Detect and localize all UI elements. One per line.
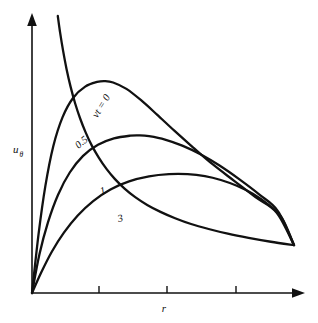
x-axis-ticks-group [99, 286, 236, 293]
axes-group [27, 13, 305, 298]
curve-label-vt0: vt = 0 [90, 92, 113, 120]
curve-label-3: 3 [115, 212, 124, 224]
y-axis-label-base: u [13, 143, 19, 155]
x-axis-label: r [162, 302, 167, 314]
plot-canvas: vt = 0 0.5 1 3 u θ r [0, 0, 318, 323]
curves-group [32, 16, 294, 293]
y-axis-arrow-icon [27, 13, 37, 26]
curve-0-5 [32, 81, 294, 293]
vortex-velocity-figure: vt = 0 0.5 1 3 u θ r [0, 0, 318, 323]
curve-vt-0 [58, 16, 294, 245]
curve-label-1: 1 [98, 184, 106, 196]
x-axis-arrow-icon [292, 288, 305, 298]
axis-labels-group: u θ r [13, 143, 167, 314]
y-axis-label-subscript: θ [20, 150, 24, 159]
